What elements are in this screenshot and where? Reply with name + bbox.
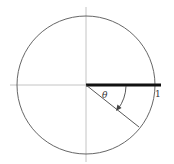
rotated-radius bbox=[86, 85, 139, 127]
angle-arc-arrow bbox=[118, 86, 126, 109]
angle-label: θ bbox=[102, 90, 108, 100]
radius-value-label: 1 bbox=[155, 89, 161, 99]
unit-circle-diagram: θ 1 bbox=[0, 0, 174, 164]
